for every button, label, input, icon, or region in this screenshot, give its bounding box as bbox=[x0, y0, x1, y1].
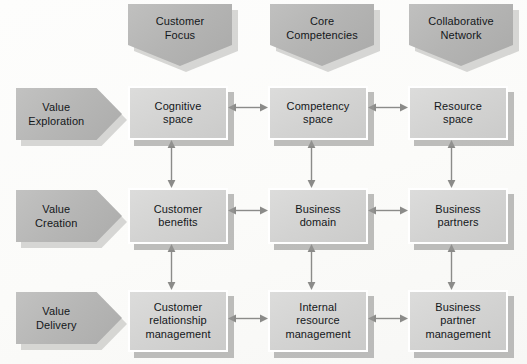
cell-label: Competency space bbox=[287, 100, 350, 127]
row-label-label: Value Creation bbox=[16, 203, 97, 230]
connector-horizontal-customer-benefits--business-domain bbox=[228, 205, 268, 216]
cell-label: Resource space bbox=[434, 100, 482, 127]
cell-competency-space[interactable]: Competency space bbox=[268, 86, 368, 140]
cell-business-domain[interactable]: Business domain bbox=[268, 188, 368, 244]
row-label-label-wrap: Value Exploration bbox=[16, 101, 97, 128]
connector-horizontal-cognitive-space--competency-space bbox=[228, 102, 268, 113]
column-header-label-wrap: Collaborative Network bbox=[409, 15, 513, 42]
row-label-label: Value Exploration bbox=[16, 101, 97, 128]
column-header-label-wrap: Core Competencies bbox=[270, 15, 374, 42]
column-header-customer-focus[interactable]: Customer Focus bbox=[128, 4, 232, 66]
cell-label: Business domain bbox=[295, 203, 340, 230]
row-label-label: Value Delivery bbox=[16, 305, 97, 332]
connector-horizontal-business-domain--business-partners bbox=[368, 205, 408, 216]
connector-horizontal-internal-resource-management--business-partner-management bbox=[368, 313, 408, 324]
column-header-core-competencies[interactable]: Core Competencies bbox=[270, 4, 374, 66]
connector-vertical-cognitive-space--customer-benefits bbox=[166, 140, 177, 188]
cell-label: Business partners bbox=[435, 203, 480, 230]
cell-internal-resource-management[interactable]: Internal resource management bbox=[268, 290, 368, 352]
cell-resource-space[interactable]: Resource space bbox=[408, 86, 508, 140]
cell-label: Customer benefits bbox=[154, 203, 202, 230]
cell-business-partner-management[interactable]: Business partner management bbox=[408, 290, 508, 352]
cell-business-partners[interactable]: Business partners bbox=[408, 188, 508, 244]
cell-customer-benefits[interactable]: Customer benefits bbox=[128, 188, 228, 244]
column-header-label-wrap: Customer Focus bbox=[128, 15, 232, 42]
cell-label: Cognitive space bbox=[155, 100, 202, 127]
value-matrix-diagram: Customer FocusCore CompetenciesCollabora… bbox=[0, 0, 527, 364]
connector-vertical-competency-space--business-domain bbox=[306, 140, 317, 188]
column-header-label: Core Competencies bbox=[270, 15, 374, 42]
row-label-label-wrap: Value Creation bbox=[16, 203, 97, 230]
connector-horizontal-customer-relationship-management--internal-resource-management bbox=[228, 313, 268, 324]
row-label-value-delivery[interactable]: Value Delivery bbox=[16, 292, 122, 344]
column-header-label: Collaborative Network bbox=[409, 15, 513, 42]
connector-horizontal-competency-space--resource-space bbox=[368, 102, 408, 113]
cell-label: Business partner management bbox=[425, 301, 490, 342]
row-label-value-creation[interactable]: Value Creation bbox=[16, 190, 122, 242]
connector-vertical-business-domain--internal-resource-management bbox=[306, 244, 317, 290]
connector-vertical-resource-space--business-partners bbox=[446, 140, 457, 188]
cell-customer-relationship-management[interactable]: Customer relationship management bbox=[128, 290, 228, 352]
cell-label: Customer relationship management bbox=[145, 301, 210, 342]
column-header-label: Customer Focus bbox=[128, 15, 232, 42]
column-header-collaborative-network[interactable]: Collaborative Network bbox=[409, 4, 513, 66]
row-label-value-exploration[interactable]: Value Exploration bbox=[16, 88, 122, 140]
cell-cognitive-space[interactable]: Cognitive space bbox=[128, 86, 228, 140]
row-label-label-wrap: Value Delivery bbox=[16, 305, 97, 332]
connector-vertical-customer-benefits--customer-relationship-management bbox=[166, 244, 177, 290]
connector-vertical-business-partners--business-partner-management bbox=[446, 244, 457, 290]
cell-label: Internal resource management bbox=[285, 301, 350, 342]
